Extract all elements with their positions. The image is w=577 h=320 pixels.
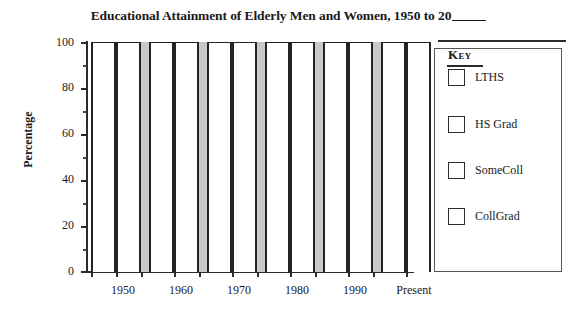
- chart-title-blank: [452, 20, 486, 21]
- y-axis-label-0: 0: [30, 265, 74, 277]
- bar-1980-women: [290, 42, 315, 272]
- legend-label-lths: LTHS: [475, 70, 504, 85]
- chart-title-text: Educational Attainment of Elderly Men an…: [91, 8, 452, 23]
- group-separator-1: [141, 42, 149, 272]
- y-axis-label-60: 60: [30, 127, 74, 139]
- group-separator-3: [257, 42, 265, 272]
- legend-label-hs-grad: HS Grad: [475, 117, 517, 132]
- x-axis-label-1970: 1970: [216, 283, 262, 298]
- x-tick-10: [373, 272, 375, 277]
- bar-1960-women: [174, 42, 199, 272]
- legend-swatch-lths: [448, 69, 465, 86]
- legend-title: Key: [448, 47, 472, 63]
- bar-1970-men: [207, 42, 232, 272]
- y-axis-label-40: 40: [30, 173, 74, 185]
- bar-1960-men: [149, 42, 174, 272]
- x-axis-label-1990: 1990: [332, 283, 378, 298]
- x-axis-label-1960: 1960: [158, 283, 204, 298]
- x-tick-0: [91, 272, 93, 277]
- group-separator-5: [373, 42, 381, 272]
- bar-1980-men: [265, 42, 290, 272]
- group-separator-4: [315, 42, 323, 272]
- bar-1950-men: [91, 42, 116, 272]
- legend-label-collgrad: CollGrad: [475, 209, 520, 224]
- x-tick-4: [199, 272, 201, 277]
- legend-item-hs-grad[interactable]: HS Grad: [448, 115, 517, 133]
- group-separator-2: [199, 42, 207, 272]
- bar-1970-women: [232, 42, 257, 272]
- bar-1990-women: [348, 42, 373, 272]
- x-tick-8: [315, 272, 317, 277]
- legend-swatch-somecoll: [448, 162, 465, 179]
- legend-item-lths[interactable]: LTHS: [448, 68, 504, 86]
- bar-present-women: [406, 42, 431, 272]
- legend-swatch-collgrad: [448, 208, 465, 225]
- x-tick-7: [290, 272, 292, 277]
- y-axis-label-80: 80: [30, 81, 74, 93]
- legend-item-somecoll[interactable]: SomeColl: [448, 161, 523, 179]
- legend-swatch-hs-grad: [448, 116, 465, 133]
- x-axis-label-present: Present: [384, 283, 444, 298]
- x-tick-3: [174, 272, 176, 277]
- bar-present-men: [381, 42, 406, 272]
- legend-title-underline: [447, 65, 483, 67]
- x-axis-label-1950: 1950: [100, 283, 146, 298]
- x-tick-9: [348, 272, 350, 277]
- legend-label-somecoll: SomeColl: [475, 163, 523, 178]
- x-tick-11: [406, 272, 408, 277]
- y-axis-label-20: 20: [30, 219, 74, 231]
- x-axis-label-1980: 1980: [274, 283, 320, 298]
- bar-1990-men: [323, 42, 348, 272]
- chart-title: Educational Attainment of Elderly Men an…: [0, 8, 577, 24]
- plot-area: [88, 42, 412, 272]
- y-axis-label-100: 100: [30, 36, 74, 48]
- x-tick-6: [257, 272, 259, 277]
- x-tick-2: [141, 272, 143, 277]
- legend-top-rule: [438, 40, 566, 42]
- legend-item-collgrad[interactable]: CollGrad: [448, 207, 520, 225]
- bar-1950-women: [116, 42, 141, 272]
- x-tick-1: [116, 272, 118, 277]
- x-tick-5: [232, 272, 234, 277]
